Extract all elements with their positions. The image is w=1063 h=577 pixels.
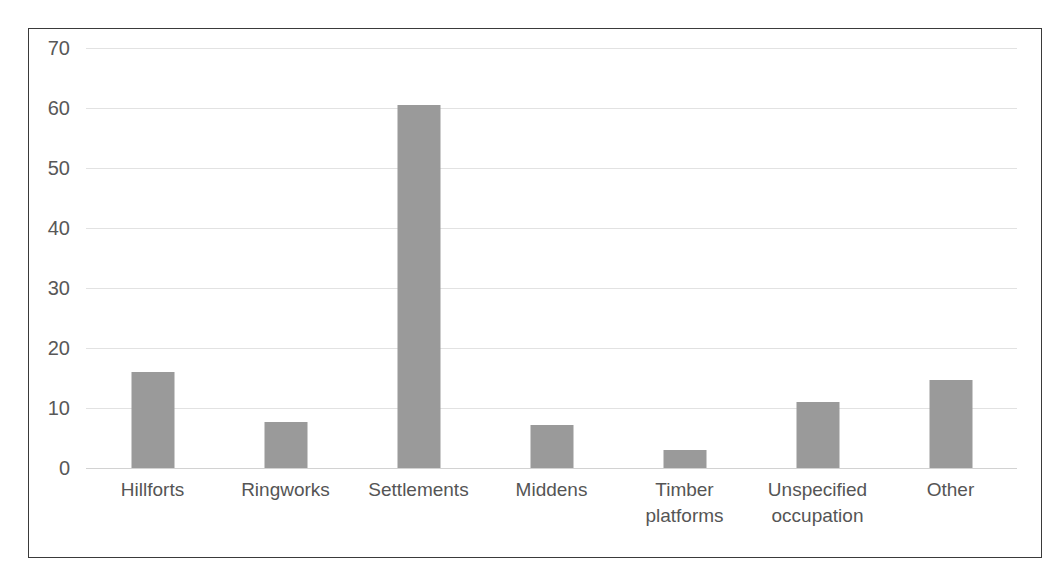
y-tick-label-60: 60 xyxy=(48,97,70,120)
gridline-0 xyxy=(86,468,1017,469)
bar[interactable] xyxy=(397,105,440,468)
x-tick-label-line: Unspecified xyxy=(751,477,884,503)
bar-series xyxy=(86,48,1017,468)
y-tick-label-10: 10 xyxy=(48,397,70,420)
bar-slot xyxy=(219,48,352,468)
x-tick-label-line: Middens xyxy=(485,477,618,503)
x-tick-label: Middens xyxy=(485,477,618,503)
x-tick-label-line: Ringworks xyxy=(219,477,352,503)
x-tick-label: Hillforts xyxy=(86,477,219,503)
bar[interactable] xyxy=(264,422,307,468)
y-tick-label-70: 70 xyxy=(48,37,70,60)
bar-slot xyxy=(352,48,485,468)
bar[interactable] xyxy=(929,380,972,468)
y-tick-label-40: 40 xyxy=(48,217,70,240)
x-tick-label: Unspecifiedoccupation xyxy=(751,477,884,529)
x-tick-label: Settlements xyxy=(352,477,485,503)
x-axis-tick-labels: HillfortsRingworksSettlementsMiddensTimb… xyxy=(86,477,1017,547)
x-tick-label-line: Other xyxy=(884,477,1017,503)
x-tick-label-line: Hillforts xyxy=(86,477,219,503)
x-tick-label: Timberplatforms xyxy=(618,477,751,529)
y-tick-label-50: 50 xyxy=(48,157,70,180)
bar[interactable] xyxy=(530,425,573,468)
y-tick-label-0: 0 xyxy=(59,457,70,480)
bar-slot xyxy=(485,48,618,468)
plot-area: 706050403020100 xyxy=(86,48,1017,468)
x-tick-label-line: Timber xyxy=(618,477,751,503)
x-tick-label: Ringworks xyxy=(219,477,352,503)
bar-slot xyxy=(618,48,751,468)
x-tick-label-line: Settlements xyxy=(352,477,485,503)
bar-slot xyxy=(86,48,219,468)
x-tick-label-line: occupation xyxy=(751,503,884,529)
bar[interactable] xyxy=(663,450,706,468)
x-tick-label-line: platforms xyxy=(618,503,751,529)
bar[interactable] xyxy=(796,402,839,468)
bar[interactable] xyxy=(131,372,174,468)
bar-slot xyxy=(884,48,1017,468)
y-tick-label-30: 30 xyxy=(48,277,70,300)
y-tick-label-20: 20 xyxy=(48,337,70,360)
chart-frame: 706050403020100 HillfortsRingworksSettle… xyxy=(28,28,1042,558)
bar-slot xyxy=(751,48,884,468)
clipped-title-strip xyxy=(0,0,1063,14)
x-tick-label: Other xyxy=(884,477,1017,503)
